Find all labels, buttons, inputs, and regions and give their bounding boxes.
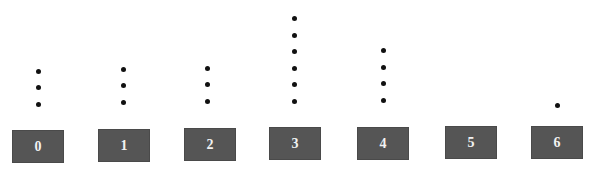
data-dot	[205, 82, 210, 87]
data-dot	[381, 48, 386, 53]
category-box-3: 3	[269, 127, 321, 160]
data-dot	[292, 33, 297, 38]
data-dot	[381, 65, 386, 70]
data-dot	[121, 67, 126, 72]
data-dot	[36, 102, 41, 107]
category-box-6: 6	[531, 126, 583, 159]
category-box-2: 2	[184, 128, 236, 161]
data-dot	[555, 103, 560, 108]
data-dot	[205, 66, 210, 71]
category-box-4: 4	[357, 127, 409, 160]
data-dot	[381, 81, 386, 86]
data-dot	[205, 99, 210, 104]
data-dot	[121, 83, 126, 88]
data-dot	[36, 85, 41, 90]
category-box-0: 0	[12, 130, 64, 163]
data-dot	[292, 66, 297, 71]
data-dot	[121, 100, 126, 105]
data-dot	[292, 49, 297, 54]
category-box-1: 1	[98, 129, 150, 162]
data-dot	[292, 16, 297, 21]
data-dot	[292, 82, 297, 87]
data-dot	[381, 98, 386, 103]
category-box-5: 5	[445, 126, 497, 159]
data-dot	[36, 69, 41, 74]
data-dot	[292, 99, 297, 104]
